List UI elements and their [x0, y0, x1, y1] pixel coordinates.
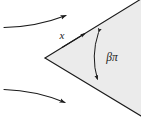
diagram-canvas: x βπ [0, 0, 141, 117]
upper-streamline [4, 16, 66, 28]
wedge-angle-label: βπ [105, 51, 119, 64]
lower-streamline [4, 90, 65, 103]
flow-past-wedge-figure: x βπ [0, 0, 141, 117]
x-coordinate-label: x [59, 29, 65, 41]
